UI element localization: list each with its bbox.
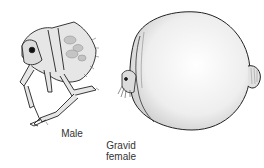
gravid-female-label: Gravid female: [104, 140, 138, 162]
gravid-female-label-line2: female: [104, 151, 138, 162]
gravid-female-drawing: [118, 12, 260, 130]
male-label: Male: [58, 128, 86, 139]
gravid-female-label-line1: Gravid: [104, 140, 138, 151]
male-flea-drawing: [20, 22, 99, 126]
